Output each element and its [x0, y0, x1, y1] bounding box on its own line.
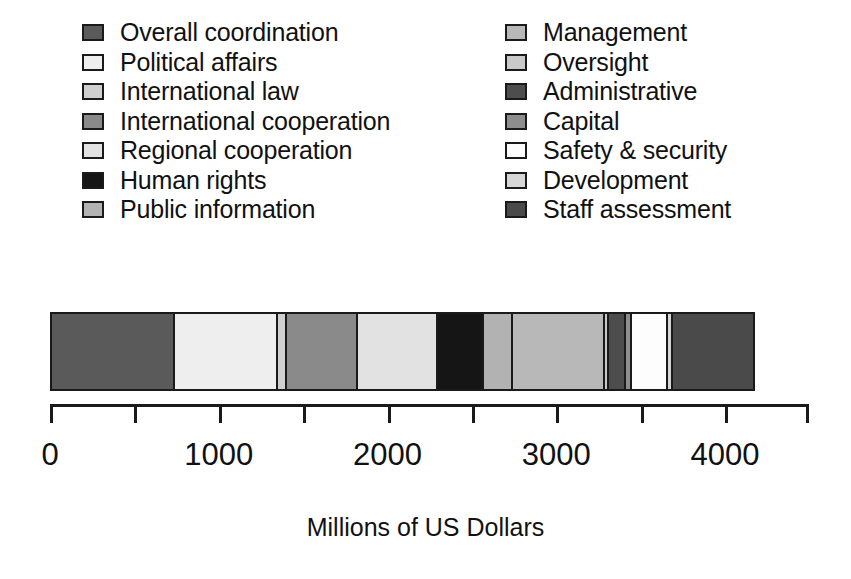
stacked-bar [50, 312, 755, 391]
legend-item-label: Development [543, 168, 688, 193]
legend-swatch-icon [82, 201, 104, 218]
legend-item-label: Political affairs [120, 50, 277, 75]
x-axis-tick [556, 404, 559, 423]
legend-item-label: International cooperation [120, 109, 390, 134]
bar-segment [632, 314, 668, 389]
bar-segment [484, 314, 513, 389]
bar-segment [605, 314, 609, 389]
x-axis-tick [219, 404, 222, 423]
legend-item-label: International law [120, 79, 299, 104]
x-axis-tick [50, 404, 53, 423]
legend-item-label: Staff assessment [543, 197, 731, 222]
bar-segment [513, 314, 605, 389]
legend-swatch-icon [505, 172, 527, 189]
x-axis-tick [303, 404, 306, 423]
x-axis-tick-label: 0 [41, 437, 58, 473]
x-axis-tick [134, 404, 137, 423]
legend-item-label: Oversight [543, 50, 648, 75]
x-axis-tick-labels: 01000200030004000 [0, 437, 851, 483]
legend-item-label: Human rights [120, 168, 266, 193]
legend-column-right: ManagementOversightAdministrativeCapital… [505, 18, 835, 248]
legend-swatch-icon [505, 142, 527, 159]
legend-item: Public information [82, 195, 502, 225]
legend-item: Political affairs [82, 48, 502, 78]
x-axis-tick [725, 404, 728, 423]
bar-segment [438, 314, 484, 389]
legend-item: Safety & security [505, 136, 835, 166]
bar-segment [287, 314, 358, 389]
bar-segment [673, 314, 755, 389]
legend-swatch-icon [505, 54, 527, 71]
x-axis-line [50, 404, 806, 407]
legend-swatch-icon [505, 201, 527, 218]
legend-item: Oversight [505, 48, 835, 78]
legend-item: Management [505, 18, 835, 48]
bar-segment [668, 314, 673, 389]
x-axis [50, 404, 806, 426]
legend-swatch-icon [82, 172, 104, 189]
legend-item-label: Administrative [543, 79, 697, 104]
legend-swatch-icon [82, 83, 104, 100]
legend-item-label: Public information [120, 197, 315, 222]
x-axis-tick-label: 4000 [691, 437, 760, 473]
bar-segment [358, 314, 438, 389]
legend-item-label: Overall coordination [120, 20, 338, 45]
bar-segment [175, 314, 278, 389]
legend-item: Development [505, 166, 835, 196]
x-axis-tick-label: 1000 [184, 437, 253, 473]
legend-item: Administrative [505, 77, 835, 107]
legend-swatch-icon [82, 113, 104, 130]
x-axis-tick [806, 404, 809, 423]
legend-swatch-icon [505, 83, 527, 100]
legend-column-left: Overall coordinationPolitical affairsInt… [82, 18, 502, 248]
legend-item-label: Safety & security [543, 138, 727, 163]
x-axis-title: Millions of US Dollars [0, 512, 851, 542]
legend-item-label: Regional cooperation [120, 138, 352, 163]
legend-item: Overall coordination [82, 18, 502, 48]
legend-swatch-icon [82, 142, 104, 159]
legend-swatch-icon [82, 54, 104, 71]
legend-item: Capital [505, 107, 835, 137]
x-axis-tick [472, 404, 475, 423]
legend-swatch-icon [82, 24, 104, 41]
bar-segment [278, 314, 287, 389]
legend-swatch-icon [505, 24, 527, 41]
legend-item: Regional cooperation [82, 136, 502, 166]
legend-item: International cooperation [82, 107, 502, 137]
legend-item: Human rights [82, 166, 502, 196]
bar-segment [52, 314, 175, 389]
bar-segment [609, 314, 626, 389]
chart-legend: Overall coordinationPolitical affairsInt… [0, 18, 851, 248]
x-axis-tick [388, 404, 391, 423]
legend-item: International law [82, 77, 502, 107]
legend-item: Staff assessment [505, 195, 835, 225]
legend-swatch-icon [505, 113, 527, 130]
legend-item-label: Management [543, 20, 687, 45]
x-axis-tick-label: 3000 [522, 437, 591, 473]
legend-item-label: Capital [543, 109, 619, 134]
x-axis-tick-label: 2000 [353, 437, 422, 473]
x-axis-tick [641, 404, 644, 423]
bar-segment [626, 314, 632, 389]
